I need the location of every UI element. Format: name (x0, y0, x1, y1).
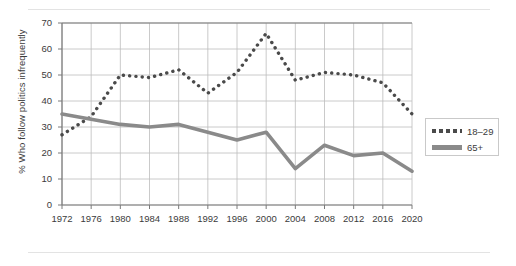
y-tick-label: 10 (28, 173, 52, 184)
legend-label-65-plus: 65+ (467, 142, 483, 153)
bottom-divider-rule (28, 252, 490, 253)
vertical-gridlines (62, 23, 412, 205)
y-tick-label: 0 (28, 199, 52, 210)
dotted-line-swatch-icon (432, 129, 462, 133)
y-tick-label: 50 (28, 69, 52, 80)
x-tick-label: 2020 (395, 213, 429, 224)
legend-item-65-plus: 65+ (432, 140, 483, 154)
y-tick-label: 70 (28, 17, 52, 28)
y-tick-label: 30 (28, 121, 52, 132)
legend-label-18-29: 18–29 (467, 126, 493, 137)
x-axis-tick-marks (62, 205, 412, 209)
legend-item-18-29: 18–29 (432, 124, 493, 138)
y-tick-label: 20 (28, 147, 52, 158)
top-divider-rule (28, 9, 490, 10)
y-tick-label: 60 (28, 43, 52, 54)
chart-figure: % Who follow politics infrequently 01020… (0, 0, 516, 266)
solid-line-swatch-icon (432, 145, 462, 150)
y-axis-title: % Who follow politics infrequently (16, 0, 27, 207)
y-tick-label: 40 (28, 95, 52, 106)
chart-legend: 18–29 65+ (425, 118, 499, 156)
